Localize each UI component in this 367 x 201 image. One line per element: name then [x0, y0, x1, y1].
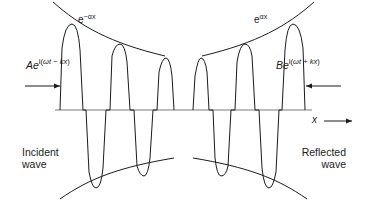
reflected-envelope-label: eαx: [254, 13, 267, 26]
reflected-caption-line-1: Reflected: [278, 146, 346, 158]
incident-wave-caption: Incident wave: [22, 146, 59, 171]
incident-waveform: [60, 24, 174, 188]
incident-amplitude-label: Aei(ωt − kx): [26, 58, 70, 71]
incident-lower-envelope: [60, 158, 174, 199]
reflected-wave-caption: Reflected wave: [278, 146, 346, 171]
incident-envelope-label: e−αx: [78, 13, 96, 26]
incident-upper-envelope: [53, 2, 165, 56]
incident-wave-group: [53, 2, 174, 199]
wave-diagram-figure: Aei(ωt − kx) Bei(ωt + kx) e−αx eαx Incid…: [0, 0, 367, 201]
incident-caption-line-2: wave: [22, 158, 59, 170]
reflected-upper-envelope: [202, 2, 314, 56]
reflected-amplitude-label: Bei(ωt + kx): [276, 58, 320, 71]
x-axis-label: x: [312, 114, 317, 126]
incident-caption-line-1: Incident: [22, 146, 59, 158]
diagram-canvas: [0, 0, 367, 201]
reflected-caption-line-2: wave: [278, 158, 346, 170]
